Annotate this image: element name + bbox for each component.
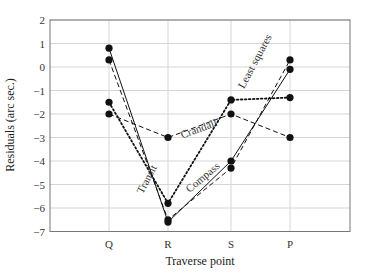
series-line-compass — [109, 60, 290, 220]
residuals-chart: 210−1−2−3−4−5−6−7 QRSP Least squaresComp… — [0, 0, 366, 278]
series-label-least-squares: Least squares — [235, 32, 274, 90]
y-tick-label: −3 — [33, 132, 45, 144]
data-point — [227, 164, 234, 171]
series-label-crandall: Crandall — [179, 116, 219, 140]
y-tick-label: −5 — [33, 179, 45, 191]
x-tick-label: S — [228, 238, 234, 250]
data-point — [105, 45, 112, 52]
y-tick-label: −6 — [33, 202, 45, 214]
x-axis-title: Traverse point — [165, 254, 235, 268]
data-point — [227, 96, 234, 103]
y-tick-label: −2 — [33, 108, 45, 120]
data-point — [286, 56, 293, 63]
data-point — [105, 110, 112, 117]
y-axis-ticks: 210−1−2−3−4−5−6−7 — [33, 14, 45, 238]
x-tick-label: Q — [105, 238, 113, 250]
y-tick-label: 0 — [40, 61, 46, 73]
series-line-least-squares — [109, 48, 290, 222]
series-lines — [105, 45, 293, 226]
y-tick-label: −4 — [33, 155, 45, 167]
x-tick-label: P — [287, 238, 293, 250]
data-point — [164, 216, 171, 223]
data-point — [164, 134, 171, 141]
y-tick-label: −1 — [33, 85, 45, 97]
y-tick-label: 1 — [40, 38, 46, 50]
data-point — [286, 94, 293, 101]
y-tick-label: −7 — [33, 226, 45, 238]
x-axis-ticks: QRSP — [105, 238, 293, 250]
data-point — [227, 110, 234, 117]
series-label-transit: Transit — [134, 163, 159, 196]
data-point — [105, 99, 112, 106]
data-point — [164, 200, 171, 207]
data-point — [105, 56, 112, 63]
x-tick-label: R — [164, 238, 172, 250]
y-tick-label: 2 — [40, 14, 46, 26]
data-point — [286, 134, 293, 141]
data-point — [286, 66, 293, 73]
y-axis-title: Residuals (arc sec.) — [3, 78, 17, 172]
